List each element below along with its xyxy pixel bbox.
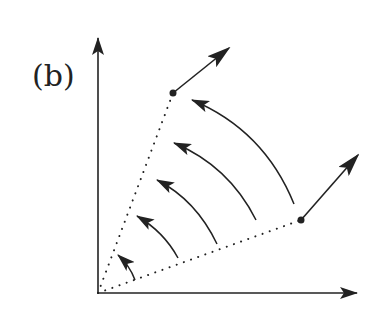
lower-vector-base-dot bbox=[298, 217, 305, 224]
lower-vector-arrow bbox=[301, 155, 358, 220]
rotation-arc-5 bbox=[192, 100, 294, 204]
dotted-rays bbox=[98, 93, 301, 293]
upper-vector-base-dot bbox=[170, 90, 177, 97]
vectors bbox=[170, 48, 359, 224]
axes bbox=[98, 38, 357, 293]
rotation-arcs bbox=[118, 100, 294, 280]
rotation-diagram: (b) bbox=[0, 0, 379, 319]
upper-ray bbox=[98, 93, 173, 293]
rotation-arc-4 bbox=[174, 143, 256, 220]
panel-label: (b) bbox=[32, 58, 75, 93]
rotation-arc-2 bbox=[137, 216, 178, 258]
upper-vector-arrow bbox=[173, 48, 229, 93]
rotation-arc-1 bbox=[118, 255, 135, 280]
rotation-arc-3 bbox=[157, 180, 217, 244]
lower-ray bbox=[98, 220, 301, 293]
